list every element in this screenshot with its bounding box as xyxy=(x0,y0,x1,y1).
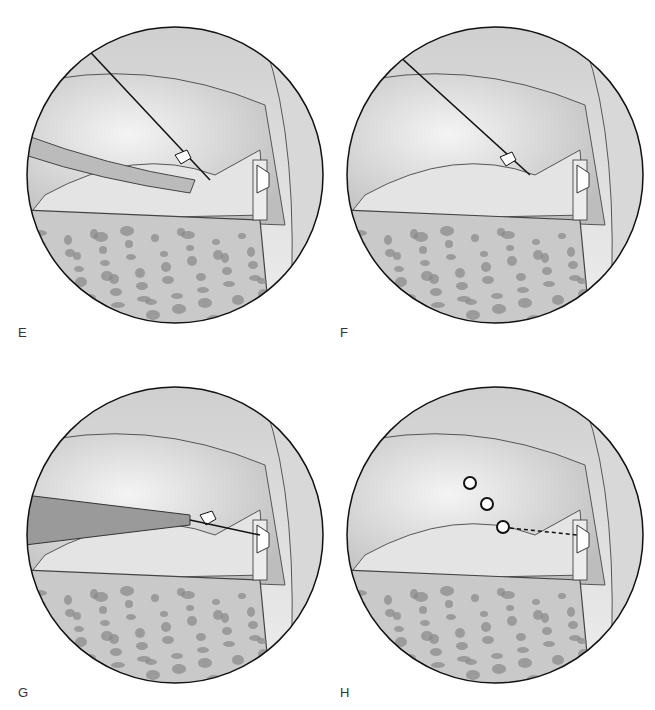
arthroscopic-view-illustration xyxy=(345,25,645,325)
panel-label: F xyxy=(340,325,348,340)
panel-label: E xyxy=(18,325,27,340)
panel-label: G xyxy=(18,685,28,700)
arthroscopic-view-illustration xyxy=(25,25,325,325)
panel-f xyxy=(345,25,645,325)
arthroscopic-view-illustration xyxy=(345,385,645,685)
panel-g xyxy=(25,385,325,685)
panel-h xyxy=(345,385,645,685)
arthroscopic-view-illustration xyxy=(25,385,325,685)
panel-e xyxy=(25,25,325,325)
panel-label: H xyxy=(340,685,349,700)
